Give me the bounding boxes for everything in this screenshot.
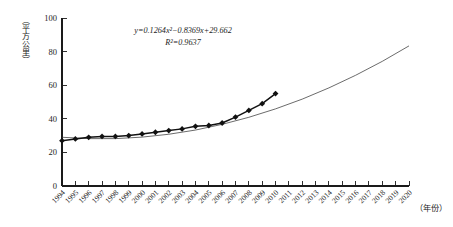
y-tick-label: 0: [53, 181, 57, 191]
data-point-markers: [59, 91, 278, 144]
chart-plot: 020406080100 199419951996199719981999200…: [0, 0, 453, 227]
x-tick-label: 2020: [397, 188, 414, 205]
data-point-marker: [233, 114, 239, 120]
y-tick-label: 60: [49, 80, 58, 90]
y-axis-ticks: 020406080100: [44, 13, 67, 191]
data-point-marker: [59, 138, 65, 144]
data-point-marker: [179, 126, 185, 132]
data-point-marker: [139, 131, 145, 137]
trend-curve: [62, 46, 409, 139]
y-tick-label: 100: [44, 13, 57, 23]
data-point-marker: [246, 108, 252, 114]
x-axis-ticks: 1994199519961997199819992000200120022003…: [50, 181, 414, 205]
data-point-marker: [166, 128, 172, 134]
y-tick-label: 80: [49, 47, 58, 57]
data-point-marker: [72, 136, 78, 142]
data-point-marker: [193, 123, 199, 129]
data-point-marker: [153, 129, 159, 135]
y-tick-label: 20: [49, 147, 58, 157]
data-series-line: [62, 94, 276, 141]
y-tick-label: 40: [49, 114, 58, 124]
r-squared-annotation: R²=0.9637: [164, 38, 201, 47]
data-point-marker: [86, 134, 92, 140]
x-axis-title: （年份）: [415, 203, 447, 213]
equation-annotation: y=0.1264x²−0.8369x+29.662: [133, 26, 231, 35]
chart-container: （平方公里） 020406080100 19941995199619971998…: [0, 0, 453, 227]
